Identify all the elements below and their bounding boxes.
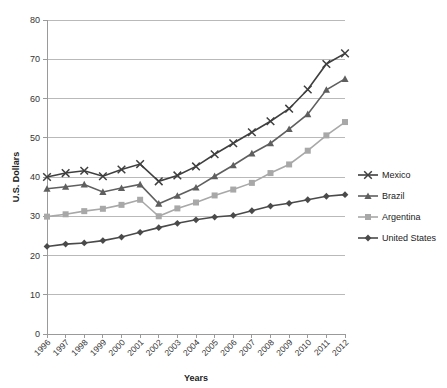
x-tick-label: 2003: [162, 337, 183, 358]
x-tick-label: 1998: [69, 337, 90, 358]
x-tick-label: 2007: [237, 337, 258, 358]
series-argentina: [44, 119, 348, 220]
data-point-marker: [211, 173, 218, 180]
y-axis-title: U.S. Dollars: [11, 152, 21, 203]
y-tick-label: 0: [35, 329, 40, 339]
data-point-marker: [118, 234, 125, 241]
data-point-marker: [137, 197, 143, 203]
legend-label: United States: [382, 233, 437, 243]
data-point-marker: [192, 163, 200, 171]
data-point-marker: [342, 119, 348, 125]
data-point-marker: [193, 216, 200, 223]
legend-label: Argentina: [382, 212, 421, 222]
y-tick-label: 80: [30, 15, 40, 25]
data-point-marker: [193, 200, 199, 206]
x-tick-label: 2002: [144, 337, 165, 358]
data-point-marker: [286, 161, 292, 167]
data-point-marker: [341, 75, 348, 82]
x-tick-label: 1999: [88, 337, 109, 358]
data-point-marker: [342, 191, 349, 198]
data-point-marker: [323, 86, 330, 93]
data-point-marker: [81, 208, 87, 214]
x-tick-label: 2004: [181, 337, 202, 358]
data-point-marker: [192, 184, 199, 191]
x-tick-label: 2000: [106, 337, 127, 358]
x-tick-label: 1996: [32, 337, 53, 358]
data-point-marker: [229, 139, 237, 147]
data-point-marker: [156, 213, 162, 219]
data-point-marker: [249, 180, 255, 186]
series-line: [47, 53, 345, 181]
legend-item-argentina[interactable]: Argentina: [358, 212, 421, 222]
x-tick-label: 1997: [51, 337, 72, 358]
data-point-marker: [212, 192, 218, 198]
x-tick-label: 2010: [293, 337, 314, 358]
data-point-marker: [99, 237, 106, 244]
data-point-marker: [248, 207, 255, 214]
legend-item-brazil[interactable]: Brazil: [358, 191, 405, 201]
data-point-marker: [285, 105, 293, 113]
data-point-marker: [62, 241, 69, 248]
data-point-marker: [267, 203, 274, 210]
chart-canvas: 0102030405060708019961997199819992000200…: [0, 0, 447, 388]
line-chart: 0102030405060708019961997199819992000200…: [0, 0, 447, 388]
data-point-marker: [248, 150, 255, 157]
legend-label: Mexico: [382, 170, 411, 180]
y-tick-label: 30: [30, 211, 40, 221]
data-point-marker: [155, 178, 163, 186]
y-tick-label: 10: [30, 290, 40, 300]
x-tick-label: 2009: [274, 337, 295, 358]
y-tick-label: 40: [30, 172, 40, 182]
x-axis-title: Years: [184, 373, 208, 383]
data-point-marker: [268, 170, 274, 176]
data-point-marker: [305, 148, 311, 154]
data-point-marker: [81, 240, 88, 247]
data-point-marker: [286, 200, 293, 207]
x-tick-label: 2008: [255, 337, 276, 358]
data-point-marker: [44, 214, 50, 220]
data-point-marker: [341, 50, 349, 58]
data-point-marker: [211, 214, 218, 221]
x-tick-label: 2006: [218, 337, 239, 358]
data-point-marker: [230, 212, 237, 219]
data-point-marker: [174, 205, 180, 211]
data-point-marker: [100, 206, 106, 212]
data-point-marker: [304, 196, 311, 203]
legend-label: Brazil: [382, 191, 405, 201]
legend-item-mexico[interactable]: Mexico: [358, 170, 411, 180]
data-point-marker: [174, 220, 181, 227]
data-point-marker: [174, 172, 182, 180]
data-point-marker: [323, 60, 331, 68]
data-point-marker: [323, 132, 329, 138]
data-point-marker: [155, 224, 162, 231]
x-tick-label: 2011: [312, 337, 332, 357]
data-point-marker: [267, 117, 275, 125]
data-point-marker: [211, 150, 219, 158]
x-tick-label: 2012: [330, 337, 351, 358]
y-tick-label: 60: [30, 94, 40, 104]
legend-marker: [365, 235, 372, 242]
legend: MexicoBrazilArgentinaUnited States: [358, 170, 437, 243]
y-tick-label: 50: [30, 133, 40, 143]
data-point-marker: [230, 187, 236, 193]
data-point-marker: [323, 193, 330, 200]
data-point-marker: [137, 229, 144, 236]
data-point-marker: [230, 162, 237, 169]
legend-item-united-states[interactable]: United States: [358, 233, 437, 243]
y-tick-label: 70: [30, 54, 40, 64]
data-point-marker: [248, 128, 256, 136]
x-tick-label: 2005: [200, 337, 221, 358]
data-point-marker: [63, 211, 69, 217]
data-point-marker: [119, 202, 125, 208]
y-tick-label: 20: [30, 251, 40, 261]
data-point-marker: [44, 243, 51, 250]
legend-marker: [365, 214, 371, 220]
data-point-marker: [304, 86, 312, 94]
x-tick-label: 2001: [125, 337, 146, 358]
